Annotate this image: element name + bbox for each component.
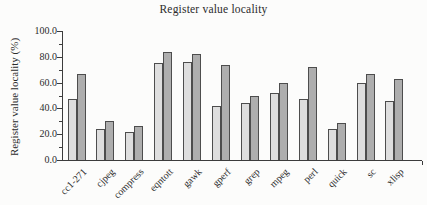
dark-bar-gawk [192, 54, 201, 160]
dark-bar-cc1-271 [77, 74, 86, 160]
dark-bar-perl [308, 67, 317, 160]
y-axis-major-tick [57, 134, 62, 135]
light-bar-eqntott [154, 63, 163, 160]
chart-title: Register value locality [0, 3, 427, 15]
y-axis-minor-tick [59, 44, 62, 45]
y-axis-minor-tick [59, 70, 62, 71]
light-bar-quick [328, 129, 337, 160]
dark-bar-eqntott [163, 52, 172, 160]
light-bar-compress [125, 132, 134, 160]
y-axis-major-tick [57, 83, 62, 84]
y-axis-major-tick [57, 108, 62, 109]
y-axis-minor-tick [59, 147, 62, 148]
plot-area: 0.020.040.060.080.0100.0cc1-271cjpegcomp… [62, 31, 422, 161]
y-axis-major-tick [57, 160, 62, 161]
y-axis-tick-label: 20.0 [13, 129, 57, 139]
dark-bar-cjpeg [105, 121, 114, 160]
light-bar-mpeg [270, 93, 279, 160]
bar-chart-figure: Register value locality Register value l… [0, 0, 427, 205]
light-bar-cc1-271 [68, 99, 77, 160]
dark-bar-xlisp [394, 79, 403, 160]
y-axis-tick-label: 60.0 [13, 78, 57, 88]
light-bar-gawk [183, 62, 192, 160]
light-bar-gperf [212, 106, 221, 160]
dark-bar-sc [366, 74, 375, 160]
light-bar-cjpeg [96, 129, 105, 160]
dark-bar-gperf [221, 65, 230, 160]
light-bar-grep [241, 103, 250, 160]
x-axis-end-tick [422, 161, 423, 165]
dark-bar-compress [134, 126, 143, 160]
light-bar-sc [357, 83, 366, 160]
dark-bar-grep [250, 96, 259, 161]
y-axis-tick-label: 100.0 [13, 26, 57, 36]
y-axis-minor-tick [59, 96, 62, 97]
y-axis-major-tick [57, 57, 62, 58]
dark-bar-mpeg [279, 83, 288, 160]
y-axis-tick-label: 40.0 [13, 103, 57, 113]
y-axis-major-tick [57, 31, 62, 32]
y-axis-minor-tick [59, 121, 62, 122]
y-axis-tick-label: 80.0 [13, 52, 57, 62]
dark-bar-quick [337, 123, 346, 160]
y-axis-tick-label: 0.0 [13, 155, 57, 165]
light-bar-xlisp [385, 101, 394, 160]
light-bar-perl [299, 99, 308, 160]
